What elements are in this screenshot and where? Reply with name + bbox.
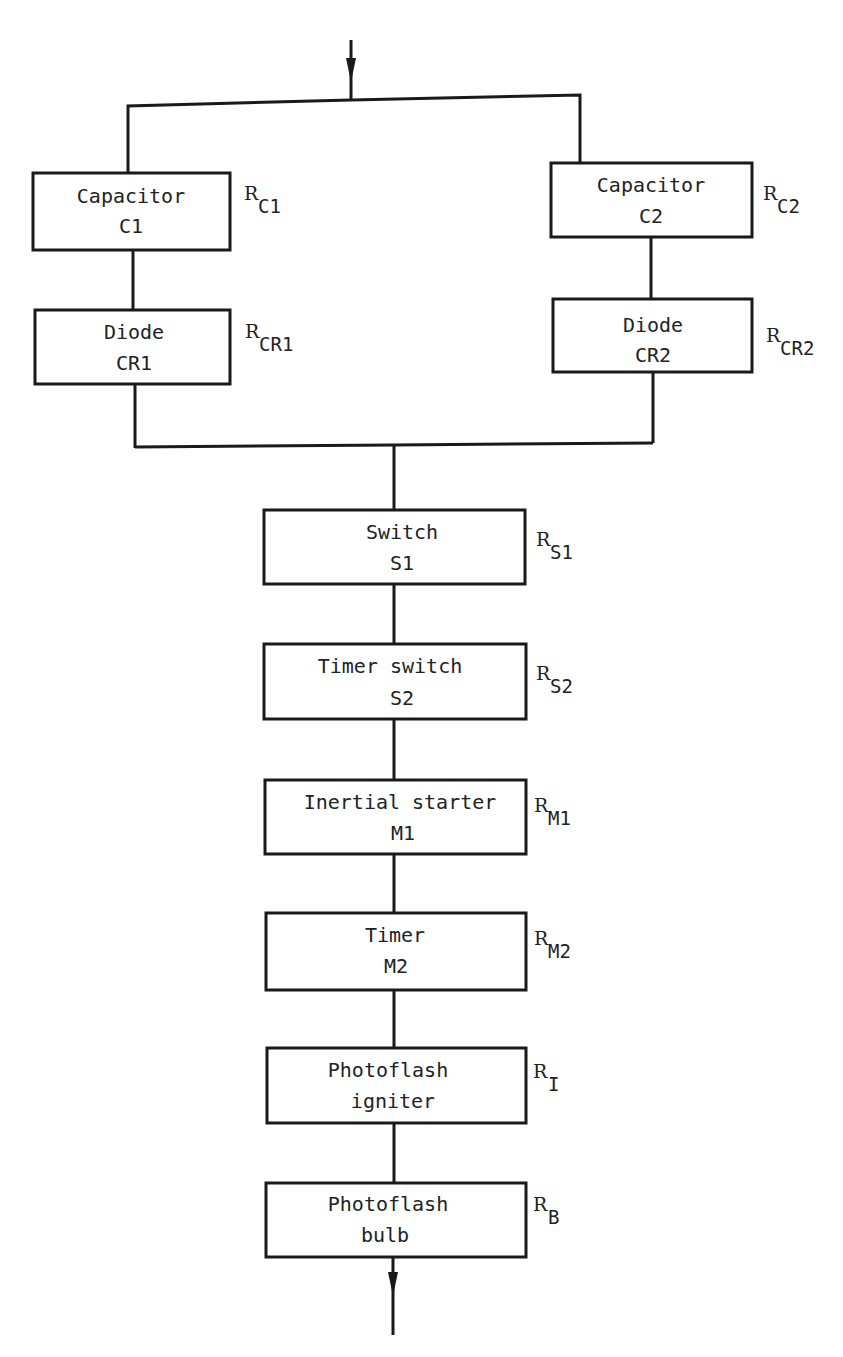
reliability-label-ri: R I — [533, 1060, 559, 1095]
block-diode-cr2: Diode CR2 — [553, 299, 752, 372]
block-label-line1: Capacitor — [77, 184, 185, 208]
output-arrow-icon — [388, 1257, 398, 1335]
reliability-block-diagram: Capacitor C1 R C1 Diode CR1 R CR1 Capaci… — [0, 0, 843, 1357]
block-label-line1: Inertial starter — [304, 790, 497, 814]
block-label-line1: Timer switch — [318, 654, 463, 678]
rel-subscript: S1 — [550, 541, 573, 563]
block-timer-switch-s2: Timer switch S2 — [264, 644, 526, 719]
block-label-line2: CR1 — [116, 351, 152, 375]
reliability-label-rcr2: R CR2 — [766, 324, 814, 359]
reliability-label-rs2: R S2 — [536, 662, 573, 697]
block-timer-m2: Timer M2 — [266, 913, 526, 990]
parallel-branch-right: Capacitor C2 R C2 Diode CR2 R CR2 — [551, 163, 814, 443]
block-label-line2: CR2 — [635, 343, 671, 367]
reliability-label-rc1: R C1 — [244, 182, 281, 217]
block-label-line1: Timer — [365, 923, 425, 947]
reliability-label-rb: R B — [533, 1193, 559, 1228]
rel-base: R — [766, 324, 781, 346]
block-label-line1: Photoflash — [328, 1192, 448, 1216]
rel-subscript: B — [548, 1206, 559, 1228]
rel-base: R — [536, 528, 551, 550]
rel-subscript: M1 — [548, 807, 571, 829]
reliability-label-rs1: R S1 — [536, 528, 573, 563]
block-label-line2: bulb — [361, 1223, 409, 1247]
block-capacitor-c1: Capacitor C1 — [33, 173, 230, 250]
block-label-line2: S2 — [390, 686, 414, 710]
rel-subscript: CR2 — [780, 337, 814, 359]
block-label-line1: Diode — [623, 313, 683, 337]
reliability-label-rcr1: R CR1 — [245, 320, 293, 355]
block-label-line2: C1 — [119, 214, 143, 238]
rel-subscript: CR1 — [259, 333, 293, 355]
block-switch-s1: Switch S1 — [264, 510, 525, 584]
block-label-line1: Photoflash — [328, 1058, 448, 1082]
block-label-line2: C2 — [639, 204, 663, 228]
rel-base: R — [534, 794, 549, 816]
parallel-branch-left: Capacitor C1 R C1 Diode CR1 R CR1 — [33, 173, 293, 448]
reliability-label-rc2: R C2 — [763, 182, 800, 217]
block-label-line2: igniter — [351, 1089, 435, 1113]
block-label-line1: Capacitor — [597, 173, 705, 197]
block-label-line1: Switch — [366, 520, 438, 544]
reliability-label-rm1: R M1 — [534, 794, 571, 829]
rel-subscript: M2 — [548, 940, 571, 962]
rel-subscript: C1 — [258, 195, 281, 217]
rel-base: R — [244, 182, 259, 204]
block-inertial-starter-m1: Inertial starter M1 — [265, 780, 526, 854]
rel-base: R — [533, 1060, 548, 1082]
rel-base: R — [533, 1193, 548, 1215]
rel-base: R — [536, 662, 551, 684]
block-label-line1: Diode — [104, 320, 164, 344]
rel-subscript: I — [548, 1073, 559, 1095]
input-arrow-icon — [346, 40, 356, 99]
rel-base: R — [245, 320, 260, 342]
rel-base: R — [534, 927, 549, 949]
rel-subscript: S2 — [550, 675, 573, 697]
block-diode-cr1: Diode CR1 — [35, 310, 230, 384]
rel-base: R — [763, 182, 778, 204]
top-bus-wire — [128, 95, 580, 172]
reliability-label-rm2: R M2 — [534, 927, 571, 962]
block-capacitor-c2: Capacitor C2 — [551, 163, 752, 237]
block-label-line2: S1 — [390, 551, 414, 575]
block-label-line2: M2 — [384, 954, 408, 978]
block-photoflash-igniter: Photoflash igniter — [267, 1048, 526, 1123]
block-label-line2: M1 — [391, 821, 415, 845]
block-photoflash-bulb: Photoflash bulb — [266, 1183, 526, 1257]
rel-subscript: C2 — [777, 195, 800, 217]
